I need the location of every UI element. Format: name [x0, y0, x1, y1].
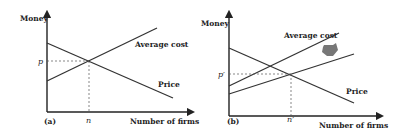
average-cost-line — [47, 28, 157, 81]
y-axis-label: Money — [20, 14, 49, 23]
x-axis-label: Number of firms — [319, 121, 388, 130]
diagram-canvas: Money Number of firms Average cost Price… — [0, 0, 400, 137]
average-cost-line-original — [229, 33, 339, 86]
y-axis-label: Money — [201, 19, 230, 28]
x-axis-label: Number of firms — [130, 117, 199, 126]
equilibrium-firms-label: n′ — [287, 115, 294, 124]
equilibrium-price-label: p′ — [218, 70, 225, 79]
average-cost-label: Average cost — [283, 31, 338, 40]
equilibrium-price-label: p — [38, 57, 43, 66]
price-label: Price — [158, 80, 180, 89]
down-arrow-icon — [322, 43, 338, 56]
panel-label: (b) — [227, 117, 239, 126]
panel-a: Money Number of firms Average cost Price… — [20, 14, 199, 126]
equilibrium-firms-label: n — [86, 116, 91, 125]
panel-label: (a) — [44, 117, 56, 126]
price-label: Price — [346, 87, 368, 96]
panel-b: Money Number of firms Average cost Price… — [201, 14, 388, 130]
average-cost-label: Average cost — [134, 40, 189, 49]
average-cost-line-shifted — [229, 54, 354, 94]
